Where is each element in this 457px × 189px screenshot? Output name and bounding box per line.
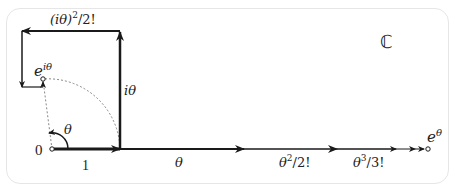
- label-e-theta: eθ: [427, 127, 442, 146]
- complex-plane-diagram: 0 1 θ iθ (iθ)2/2! eiθ θ θ2/2! θ3/3! eθ ℂ: [0, 0, 457, 189]
- complex-plane-symbol: ℂ: [380, 32, 393, 52]
- unit-label: 1: [82, 158, 89, 173]
- label-i-theta: iθ: [124, 83, 136, 98]
- point-origin: [50, 147, 54, 151]
- label-i-theta-sq: (iθ)2/2!: [50, 10, 96, 27]
- label-theta-sq: θ2/2!: [279, 153, 310, 170]
- label-theta: θ: [175, 155, 183, 170]
- label-theta-cu: θ3/3!: [353, 153, 384, 170]
- unit-circle-arc: [43, 79, 120, 149]
- radius-line: [43, 80, 52, 149]
- origin-label: 0: [35, 142, 43, 158]
- point-e-theta: [426, 147, 430, 151]
- angle-label: θ: [64, 122, 72, 137]
